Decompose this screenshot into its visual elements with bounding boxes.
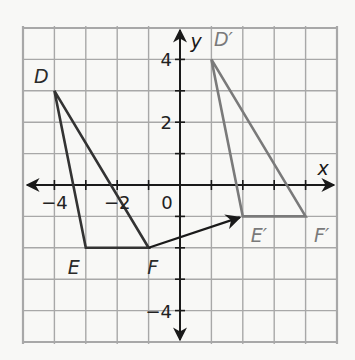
labels: −4−242−40xyDEFD′E′F′	[34, 28, 330, 321]
coordinate-plane: −4−242−40xyDEFD′E′F′	[0, 0, 355, 360]
translation-vector-arrow	[149, 217, 240, 247]
x-tick-label: −2	[104, 192, 131, 213]
vertex-label-e-prime: E′	[251, 224, 268, 246]
vertex-label-e: E	[68, 256, 80, 278]
y-tick-label: 2	[161, 112, 172, 133]
y-tick-label: 4	[161, 49, 172, 70]
origin-label: 0	[161, 192, 172, 213]
triangle-def-outline	[54, 91, 148, 248]
vertex-label-f-prime: F′	[314, 224, 330, 246]
y-tick-label: −4	[145, 301, 172, 322]
vertex-label-f: F	[147, 256, 159, 278]
triangle-def	[54, 91, 148, 248]
triangle-def-prime-outline	[211, 59, 305, 216]
x-tick-label: −4	[41, 192, 68, 213]
vertex-label-d: D	[34, 65, 49, 87]
coordinate-plane-figure: −4−242−40xyDEFD′E′F′	[0, 0, 355, 360]
x-axis-label: x	[316, 157, 329, 179]
triangle-def-prime	[211, 59, 305, 216]
y-axis-label: y	[189, 30, 202, 52]
translation-arrow	[149, 217, 240, 247]
vertex-label-d-prime: D′	[214, 28, 234, 50]
